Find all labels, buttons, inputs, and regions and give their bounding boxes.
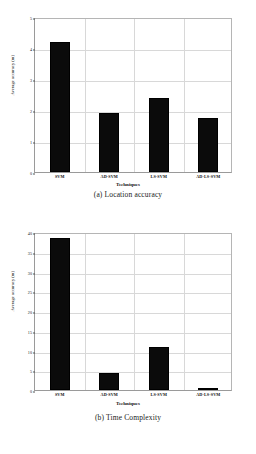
x-tick-label: LS-SVM	[151, 393, 167, 397]
bar-ad-ls-svm	[198, 388, 218, 390]
y-tick-label: 0	[30, 172, 35, 176]
y-tick-label: 35	[28, 252, 35, 256]
gridline-vertical	[85, 234, 86, 390]
bar-ls-svm	[149, 347, 169, 390]
bar-ad-ls-svm	[198, 118, 218, 172]
x-tick-label: SVM	[55, 175, 65, 179]
figure-a-caption: (a) Location accuracy	[0, 190, 256, 199]
gridline-vertical	[134, 234, 135, 390]
gridline-vertical	[184, 234, 185, 390]
y-tick-label: 1	[30, 141, 35, 145]
y-tick-label: 10	[28, 350, 35, 354]
chart-b-x-axis-label: Techniques	[0, 401, 256, 406]
y-tick-label: 5	[30, 17, 35, 21]
y-tick-label: 20	[28, 311, 35, 315]
gridline-vertical	[184, 19, 185, 172]
chart-b-plot-host: 0510152025303540SVMAD-SVMLS-SVMAD-LS-SVM…	[0, 215, 256, 410]
gridline-vertical	[134, 19, 135, 172]
y-tick-label: 0	[30, 390, 35, 394]
figure-time-complexity: 0510152025303540SVMAD-SVMLS-SVMAD-LS-SVM…	[0, 215, 256, 440]
x-tick-label: SVM	[55, 393, 65, 397]
y-tick-label: 40	[28, 232, 35, 236]
chart-b-axes: 0510152025303540SVMAD-SVMLS-SVMAD-LS-SVM	[34, 233, 232, 391]
y-tick-label: 2	[30, 110, 35, 114]
x-tick-label: AD-LS-SVM	[196, 393, 220, 397]
bar-ls-svm	[149, 98, 169, 172]
chart-a-wrap: 012345SVMAD-SVMLS-SVMAD-LS-SVM Average a…	[0, 0, 256, 190]
chart-a-x-axis-label: Techniques	[0, 182, 256, 187]
bar-ad-svm	[99, 113, 119, 172]
y-tick-label: 5	[30, 370, 35, 374]
bar-svm	[50, 42, 70, 172]
y-tick-label: 30	[28, 271, 35, 275]
bar-svm	[50, 238, 70, 390]
y-tick-label: 25	[28, 291, 35, 295]
chart-a-plot-host: 012345SVMAD-SVMLS-SVMAD-LS-SVM Average a…	[0, 0, 256, 190]
x-tick-label: LS-SVM	[151, 175, 167, 179]
y-tick-label: 3	[30, 79, 35, 83]
y-tick-label: 15	[28, 331, 35, 335]
chart-b-wrap: 0510152025303540SVMAD-SVMLS-SVMAD-LS-SVM…	[0, 215, 256, 410]
x-tick-label: AD-SVM	[101, 393, 118, 397]
figure-b-caption: (b) Time Complexity	[0, 413, 256, 422]
x-tick-label: AD-LS-SVM	[196, 175, 220, 179]
gridline-vertical	[85, 19, 86, 172]
bar-ad-svm	[99, 373, 119, 390]
chart-a-axes: 012345SVMAD-SVMLS-SVMAD-LS-SVM	[34, 18, 232, 173]
x-tick-label: AD-SVM	[101, 175, 118, 179]
figure-location-accuracy: 012345SVMAD-SVMLS-SVMAD-LS-SVM Average a…	[0, 0, 256, 212]
y-tick-label: 4	[30, 48, 35, 52]
